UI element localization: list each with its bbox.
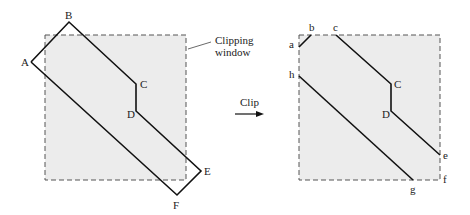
vertex-label-C: C (140, 78, 147, 90)
vertex-label-D-after: D (382, 108, 390, 120)
vertex-label-D: D (127, 108, 135, 120)
clipping-window-after (299, 35, 440, 180)
vertex-label-E: E (204, 165, 211, 177)
vertex-label-e: e (443, 149, 448, 161)
vertex-label-B: B (65, 9, 72, 21)
after-panel: a b c C D e f g h (289, 21, 448, 195)
vertex-label-A: A (21, 56, 29, 68)
vertex-label-f: f (443, 173, 447, 185)
vertex-label-a: a (289, 38, 294, 50)
clipping-window-label-line2: window (215, 46, 251, 58)
vertex-label-F: F (173, 199, 179, 211)
arrowhead-icon (256, 111, 264, 117)
clip-operation: Clip (235, 96, 264, 117)
vertex-label-h: h (289, 68, 295, 80)
callout-leader-line (188, 42, 211, 49)
vertex-label-c: c (333, 21, 338, 33)
vertex-label-C-after: C (394, 78, 401, 90)
before-panel: A B C D E F Clipping window (21, 9, 254, 211)
clip-label: Clip (240, 96, 259, 108)
vertex-label-g: g (410, 183, 416, 195)
clipping-diagram: A B C D E F Clipping window Clip a b c C… (0, 0, 470, 215)
clipping-window-label-line1: Clipping (215, 34, 254, 46)
clipping-window-before (45, 35, 186, 180)
vertex-label-b: b (309, 21, 315, 33)
